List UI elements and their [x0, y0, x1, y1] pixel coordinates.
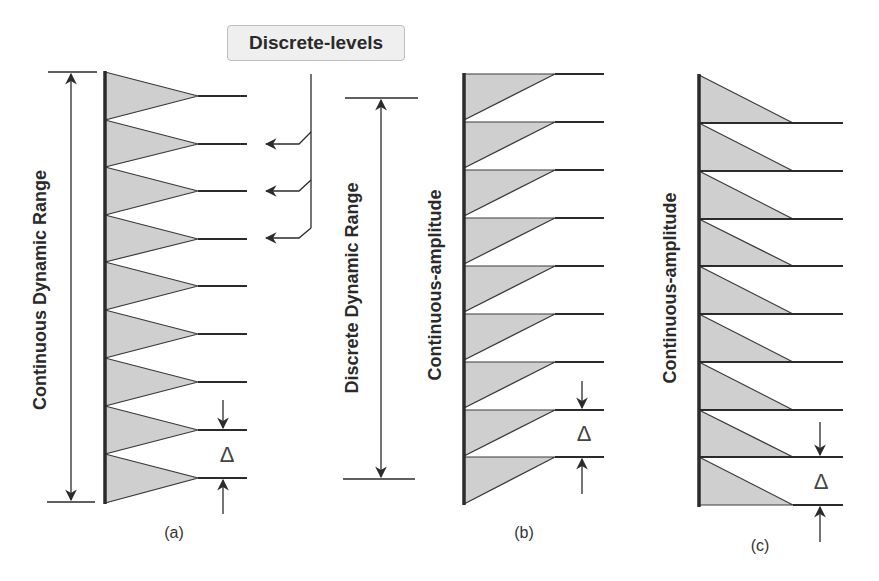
continuous-dynamic-range-label: Continuous Dynamic Range: [30, 170, 51, 410]
continuous-range-arrow: [47, 72, 97, 502]
panel-b-triangles: [464, 74, 555, 504]
panel-b: [343, 73, 604, 505]
panel-b-caption: (b): [514, 524, 534, 542]
panel-b-axis-label: Continuous-amplitude: [425, 190, 446, 381]
discrete-dynamic-range-label: Discrete Dynamic Range: [342, 182, 363, 393]
panel-a: [47, 71, 311, 514]
panel-c-triangles: [699, 75, 793, 505]
panel-c-axis-label: Continuous-amplitude: [660, 193, 681, 384]
panel-c-caption: (c): [751, 537, 770, 555]
panel-a-triangles: [105, 72, 198, 503]
panel-a-caption: (a): [164, 524, 184, 542]
panel-a-delta-label: Δ: [220, 442, 235, 468]
panel-c-delta-label: Δ: [814, 469, 829, 495]
panel-b-delta-label: Δ: [577, 421, 592, 447]
discrete-levels-pointer: [266, 74, 311, 238]
panel-b-level-lines: [555, 74, 604, 457]
discrete-levels-label: Discrete-levels: [227, 25, 405, 61]
